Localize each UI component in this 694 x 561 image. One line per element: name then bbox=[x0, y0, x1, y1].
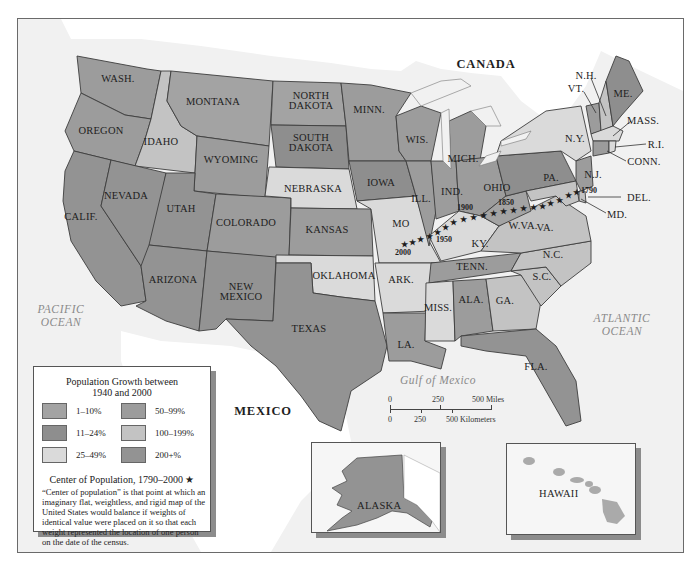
label-pacific-1: PACIFIC bbox=[37, 303, 85, 315]
swatch bbox=[121, 403, 146, 419]
svg-text:W.VA.: W.VA. bbox=[508, 220, 537, 231]
label-new-mexico-2: MEXICO bbox=[220, 291, 263, 302]
svg-text:★: ★ bbox=[510, 206, 518, 215]
svg-text:MINN.: MINN. bbox=[353, 104, 385, 115]
svg-text:S.C.: S.C. bbox=[533, 271, 552, 282]
svg-text:★: ★ bbox=[450, 218, 458, 227]
center-of-population-description: “Center of population” is that point at … bbox=[42, 487, 207, 547]
svg-text:VT.: VT. bbox=[568, 83, 584, 94]
svg-text:ARK.: ARK. bbox=[388, 274, 414, 285]
state-ri[interactable] bbox=[609, 141, 616, 153]
swatch bbox=[42, 403, 67, 419]
legend-item-50-99: 50–99% bbox=[121, 403, 185, 419]
svg-text:OHIO: OHIO bbox=[483, 182, 510, 193]
svg-text:KANSAS: KANSAS bbox=[305, 224, 348, 235]
legend-item-200-plus: 200+% bbox=[121, 447, 181, 463]
svg-text:IOWA: IOWA bbox=[367, 177, 395, 188]
svg-text:CONN.: CONN. bbox=[627, 156, 660, 167]
svg-text:GA.: GA. bbox=[496, 295, 514, 306]
svg-text:N.C.: N.C. bbox=[543, 249, 564, 260]
legend-title: Population Growth between 1940 and 2000 bbox=[34, 376, 210, 398]
svg-text:N.J.: N.J. bbox=[584, 169, 602, 180]
svg-text:★: ★ bbox=[442, 223, 450, 232]
center-of-population-title: Center of Population, 1790–2000 ★ bbox=[34, 474, 210, 485]
svg-text:★: ★ bbox=[539, 202, 547, 211]
svg-text:LA.: LA. bbox=[397, 339, 414, 350]
year-label-1790: 1790 bbox=[581, 186, 597, 195]
swatch bbox=[42, 447, 67, 463]
svg-text:N.Y.: N.Y. bbox=[565, 133, 585, 144]
state-wyoming[interactable] bbox=[194, 136, 269, 198]
svg-text:N.H.: N.H. bbox=[575, 70, 596, 81]
label-mexico: MEXICO bbox=[234, 404, 292, 418]
svg-text:★: ★ bbox=[409, 238, 417, 247]
year-label-1850: 1850 bbox=[498, 198, 514, 207]
svg-text:NEVADA: NEVADA bbox=[104, 190, 148, 201]
svg-text:★: ★ bbox=[480, 211, 488, 220]
svg-text:PA.: PA. bbox=[543, 172, 559, 183]
svg-text:★: ★ bbox=[470, 213, 478, 222]
legend-item-100-199: 100–199% bbox=[121, 425, 194, 441]
svg-text:★: ★ bbox=[426, 232, 434, 241]
svg-text:MISS.: MISS. bbox=[424, 302, 452, 313]
label-south-dakota-2: DAKOTA bbox=[289, 142, 334, 153]
alaska-inset: ALASKA bbox=[311, 442, 441, 533]
svg-text:★: ★ bbox=[490, 209, 498, 218]
year-label-1950: 1950 bbox=[436, 235, 452, 244]
svg-text:WIS.: WIS. bbox=[406, 134, 429, 145]
star-1790: ★ bbox=[573, 188, 581, 197]
state-conn[interactable] bbox=[593, 141, 609, 156]
svg-text:TENN.: TENN. bbox=[456, 261, 488, 272]
legend: Population Growth between 1940 and 2000 … bbox=[33, 366, 211, 532]
svg-text:KY.: KY. bbox=[471, 238, 488, 249]
svg-text:MONTANA: MONTANA bbox=[186, 96, 240, 107]
svg-text:MICH.: MICH. bbox=[447, 153, 478, 164]
svg-text:ARIZONA: ARIZONA bbox=[149, 274, 198, 285]
svg-text:UTAH: UTAH bbox=[166, 203, 195, 214]
svg-text:WASH.: WASH. bbox=[101, 73, 134, 84]
svg-text:VA.: VA. bbox=[536, 222, 553, 233]
svg-text:★: ★ bbox=[520, 204, 528, 213]
svg-text:ME.: ME. bbox=[614, 88, 633, 99]
svg-text:MD.: MD. bbox=[607, 209, 627, 220]
state-vt[interactable] bbox=[586, 103, 601, 134]
hawaii-inset: HAWAII bbox=[506, 443, 636, 535]
svg-text:MO: MO bbox=[392, 218, 410, 229]
svg-text:WYOMING: WYOMING bbox=[204, 154, 259, 165]
swatch bbox=[42, 425, 67, 441]
svg-text:NEBRASKA: NEBRASKA bbox=[284, 183, 342, 194]
label-north-dakota-2: DAKOTA bbox=[289, 100, 334, 111]
scale-line bbox=[390, 409, 492, 410]
svg-text:★: ★ bbox=[530, 203, 538, 212]
swatch bbox=[121, 447, 146, 463]
svg-text:ALA.: ALA. bbox=[458, 294, 483, 305]
label-gulf-of-mexico: Gulf of Mexico bbox=[400, 374, 476, 386]
svg-text:★: ★ bbox=[547, 199, 555, 208]
svg-text:★: ★ bbox=[460, 215, 468, 224]
svg-text:★: ★ bbox=[556, 196, 564, 205]
svg-text:IDAHO: IDAHO bbox=[144, 136, 179, 147]
big-island-shape bbox=[602, 499, 625, 524]
svg-text:MASS.: MASS. bbox=[627, 115, 659, 126]
svg-text:★: ★ bbox=[500, 207, 508, 216]
svg-text:R.I.: R.I. bbox=[648, 139, 665, 150]
svg-text:OREGON: OREGON bbox=[79, 125, 124, 136]
svg-text:COLORADO: COLORADO bbox=[216, 217, 276, 228]
svg-text:DEL.: DEL. bbox=[627, 192, 651, 203]
year-label-2000: 2000 bbox=[395, 248, 411, 257]
legend-item-1-10: 1–10% bbox=[42, 403, 102, 419]
svg-text:ILL.: ILL. bbox=[411, 193, 431, 204]
state-arizona[interactable] bbox=[136, 245, 207, 331]
star-icon: ★ bbox=[185, 474, 194, 485]
svg-text:FLA.: FLA. bbox=[524, 361, 547, 372]
scale-bar: 0 250 500 Miles 0 250 500 Kilometers bbox=[388, 395, 508, 431]
svg-text:TEXAS: TEXAS bbox=[292, 323, 327, 334]
legend-item-25-49: 25–49% bbox=[42, 447, 106, 463]
svg-text:IND.: IND. bbox=[441, 186, 463, 197]
legend-item-11-24: 11–24% bbox=[42, 425, 106, 441]
svg-text:★: ★ bbox=[565, 191, 573, 200]
svg-text:CALIF.: CALIF. bbox=[64, 211, 97, 222]
svg-text:OKLAHOMA: OKLAHOMA bbox=[313, 270, 376, 281]
swatch bbox=[121, 425, 146, 441]
label-canada: CANADA bbox=[457, 57, 516, 71]
